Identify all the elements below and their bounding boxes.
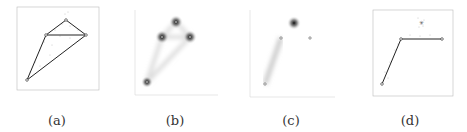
panel-a <box>17 7 99 90</box>
panel-c <box>250 10 335 97</box>
svg-text:✳: ✳ <box>419 19 424 26</box>
caption-c: (c) <box>271 113 311 128</box>
panel-b <box>135 10 218 95</box>
caption-b: (b) <box>155 113 195 128</box>
panel-d: ✳ <box>373 10 453 96</box>
caption-d: (d) <box>390 113 430 128</box>
figure: ✳ (a) (b) (c) (d) <box>0 0 467 132</box>
caption-a: (a) <box>37 113 77 128</box>
